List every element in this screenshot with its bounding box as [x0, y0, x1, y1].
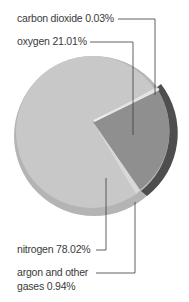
label-carbon-dioxide: carbon dioxide 0.03%: [17, 12, 114, 25]
label-oxygen: oxygen 21.01%: [17, 35, 87, 48]
label-nitrogen: nitrogen 78.02%: [17, 243, 90, 256]
label-argon-line1: argon and other: [17, 266, 88, 279]
label-argon-line2: gases 0.94%: [17, 280, 76, 293]
